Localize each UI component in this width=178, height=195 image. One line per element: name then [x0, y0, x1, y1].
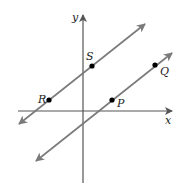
point-p: [109, 97, 114, 102]
line-RS: [19, 24, 145, 124]
x-axis-label: x: [165, 114, 172, 127]
point-label-r: R: [37, 93, 46, 106]
point-label-q: Q: [160, 65, 169, 78]
point-label-s: S: [86, 50, 94, 63]
labeled-points: SQRP: [37, 50, 169, 110]
line-PQ: [36, 53, 172, 161]
coordinate-diagram: x y SQRP: [0, 0, 178, 195]
point-q: [152, 62, 157, 67]
point-label-p: P: [116, 97, 125, 110]
point-s: [89, 63, 94, 68]
y-axis-label: y: [71, 11, 79, 24]
point-r: [46, 97, 51, 102]
